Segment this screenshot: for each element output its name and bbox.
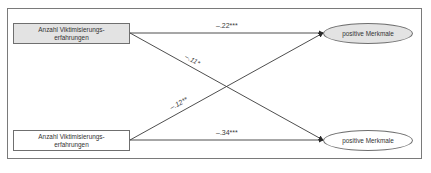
coefficient-top-top: –.22*** [216,22,238,29]
path-diagram: Anzahl Viktimisierungs- erfahrungen Anza… [0,0,431,173]
outcome-ellipse-top: positive Merkmale [323,23,413,44]
predictor-bottom-line1: Anzahl Viktimisierungs- [38,133,104,141]
predictor-bottom-line2: erfahrungen [54,141,88,149]
outcome-bottom-label: positive Merkmale [342,137,394,144]
predictor-box-bottom: Anzahl Viktimisierungs- erfahrungen [13,130,130,151]
coefficient-bottom-bottom: –.34*** [216,129,238,136]
predictor-box-top: Anzahl Viktimisierungs- erfahrungen [13,23,130,44]
predictor-top-line2: erfahrungen [54,34,88,42]
outcome-top-label: positive Merkmale [342,30,394,37]
outcome-ellipse-bottom: positive Merkmale [323,130,413,151]
predictor-top-line1: Anzahl Viktimisierungs- [38,26,104,34]
